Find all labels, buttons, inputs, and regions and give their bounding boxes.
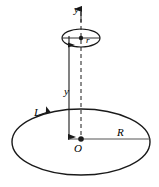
- small-loop-center-dot: [79, 36, 83, 40]
- height-label: y: [64, 86, 69, 97]
- current-label: I: [34, 107, 38, 118]
- y-axis-label: y: [74, 4, 79, 15]
- big-radius-label: R: [117, 127, 124, 138]
- figure-canvas: [0, 0, 159, 187]
- physics-figure: y r y I R O: [0, 0, 159, 187]
- origin-label: O: [74, 143, 82, 154]
- origin-dot: [78, 136, 84, 142]
- small-radius-label: r: [86, 36, 90, 45]
